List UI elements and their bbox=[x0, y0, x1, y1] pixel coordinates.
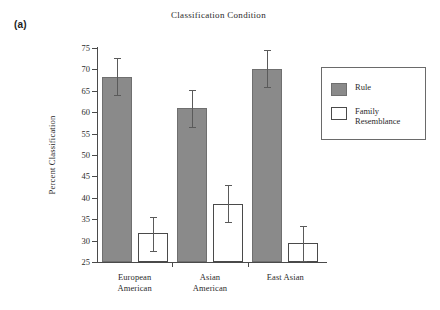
y-tick-label: 45 bbox=[82, 172, 91, 181]
x-tick-mark bbox=[172, 262, 173, 267]
error-bar-cap-lower bbox=[300, 261, 307, 262]
error-bar-cap-lower bbox=[114, 95, 121, 96]
plot-area: 2530354045505560657075 bbox=[97, 48, 323, 262]
y-tick-mark bbox=[92, 241, 97, 242]
y-tick-mark bbox=[92, 112, 97, 113]
y-axis-title: Percent Classification bbox=[47, 116, 57, 195]
error-bar-line bbox=[267, 50, 268, 86]
x-category-label: AsianAmerican bbox=[172, 272, 247, 294]
error-bar-cap-upper bbox=[150, 217, 157, 218]
figure-panel: (a) Classification Condition Percent Cla… bbox=[0, 0, 440, 310]
legend-label: Family Resemblance bbox=[355, 106, 400, 126]
error-bar-cap-lower bbox=[264, 87, 271, 88]
y-tick-label: 75 bbox=[82, 44, 91, 53]
y-tick-mark bbox=[92, 69, 97, 70]
x-category-label: East Asian bbox=[248, 272, 323, 283]
error-bar-cap-upper bbox=[114, 58, 121, 59]
legend-swatch-icon bbox=[331, 83, 347, 96]
error-bar-line bbox=[153, 217, 154, 251]
y-tick-mark bbox=[92, 219, 97, 220]
error-bar-cap-upper bbox=[225, 185, 232, 186]
error-bar-line bbox=[228, 185, 229, 222]
bar-rule bbox=[102, 77, 132, 262]
y-tick-label: 50 bbox=[82, 151, 91, 160]
error-bar-line bbox=[117, 58, 118, 95]
error-bar-line bbox=[192, 90, 193, 127]
legend-label: Rule bbox=[355, 82, 371, 92]
error-bar-cap-upper bbox=[300, 226, 307, 227]
y-tick-label: 25 bbox=[82, 258, 91, 267]
error-bar-cap-lower bbox=[150, 251, 157, 252]
y-tick-label: 65 bbox=[82, 87, 91, 96]
x-category-label-line: American bbox=[97, 283, 172, 294]
chart-title: Classification Condition bbox=[97, 10, 340, 20]
y-tick-label: 55 bbox=[82, 129, 91, 138]
y-tick-mark bbox=[92, 91, 97, 92]
x-category-label: EuropeanAmerican bbox=[97, 272, 172, 294]
chart-legend: RuleFamily Resemblance bbox=[321, 67, 426, 140]
y-tick-mark bbox=[92, 48, 97, 49]
x-category-label-line: East Asian bbox=[248, 272, 323, 283]
error-bar-line bbox=[303, 226, 304, 261]
x-tick-mark bbox=[248, 262, 249, 267]
y-tick-mark bbox=[92, 134, 97, 135]
x-category-label-line: Asian bbox=[172, 272, 247, 283]
y-tick-label: 70 bbox=[82, 65, 91, 74]
bar-rule bbox=[252, 69, 282, 262]
bar-rule bbox=[177, 108, 207, 262]
y-tick-label: 35 bbox=[82, 215, 91, 224]
x-category-label-line: European bbox=[97, 272, 172, 283]
y-tick-mark bbox=[92, 176, 97, 177]
error-bar-cap-upper bbox=[189, 90, 196, 91]
error-bar-cap-upper bbox=[264, 50, 271, 51]
x-category-label-line: American bbox=[172, 283, 247, 294]
y-tick-label: 60 bbox=[82, 108, 91, 117]
legend-item-rule: Rule bbox=[331, 82, 371, 96]
y-tick-mark bbox=[92, 262, 97, 263]
legend-swatch-icon bbox=[331, 107, 347, 120]
y-tick-mark bbox=[92, 155, 97, 156]
x-axis-line bbox=[97, 262, 327, 263]
y-tick-label: 30 bbox=[82, 236, 91, 245]
error-bar-cap-lower bbox=[189, 127, 196, 128]
y-tick-label: 40 bbox=[82, 194, 91, 203]
error-bar-cap-lower bbox=[225, 222, 232, 223]
y-tick-mark bbox=[92, 198, 97, 199]
legend-item-family-resemblance: Family Resemblance bbox=[331, 106, 400, 126]
panel-label: (a) bbox=[14, 19, 27, 30]
